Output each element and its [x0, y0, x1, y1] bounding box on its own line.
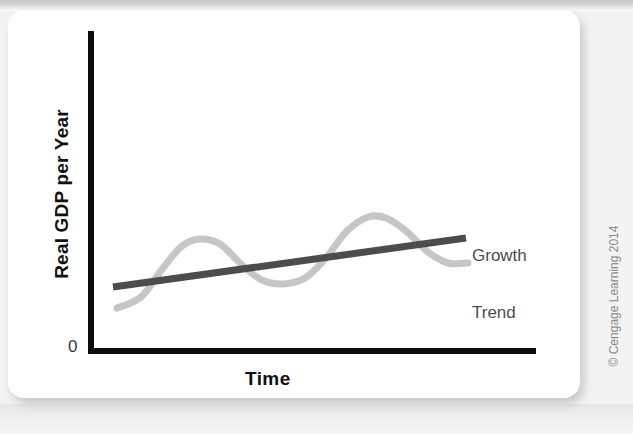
x-axis-title: Time	[245, 368, 291, 390]
y-axis-title: Real GDP per Year	[51, 99, 73, 289]
page-background-bottom-shadow	[0, 404, 633, 434]
copyright-credit: © Cengage Learning 2014	[607, 206, 621, 386]
growth-trend-label-line-2: Trend	[472, 303, 527, 322]
page-top-edge-band	[0, 0, 633, 9]
origin-label: 0	[68, 337, 77, 357]
figure-root: Real GDP per Year Time 0 Growth Trend © …	[0, 0, 633, 434]
growth-trend-label-line-1: Growth	[472, 246, 527, 265]
growth-trend-label: Growth Trend	[472, 208, 527, 360]
